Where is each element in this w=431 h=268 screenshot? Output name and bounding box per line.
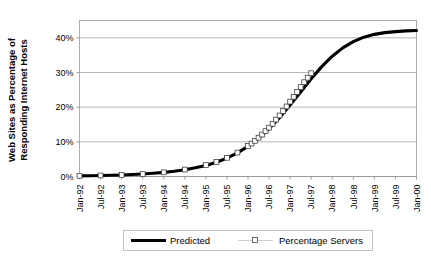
data-point-marker [77, 173, 82, 178]
x-tick-label: Jul-98 [349, 185, 359, 210]
x-tick-label: Jul-96 [264, 185, 274, 210]
x-tick-label: Jan-94 [159, 185, 169, 213]
data-point-marker [161, 170, 166, 175]
data-point-marker [225, 155, 230, 160]
data-point-marker [291, 94, 296, 99]
data-point-marker [140, 172, 145, 177]
data-point-marker [277, 113, 282, 118]
legend-label-predicted: Predicted [170, 235, 210, 246]
chart-canvas: Web Sites as Percentage of Responding In… [0, 0, 431, 268]
data-point-marker [203, 163, 208, 168]
y-axis-tickmarks [77, 38, 80, 177]
x-tick-label: Jan-95 [201, 185, 211, 213]
y-tick-label: 20% [55, 102, 73, 112]
data-point-marker [295, 90, 300, 95]
x-tick-label: Jul-94 [180, 185, 190, 210]
x-axis-tickmarks [80, 177, 417, 180]
y-axis-title-line2: Responding Internet Hosts [18, 39, 29, 160]
y-axis-title-line1: Web Sites as Percentage of [6, 37, 17, 162]
data-point-marker [284, 104, 289, 109]
data-point-marker [214, 160, 219, 165]
x-tick-label: Jul-97 [306, 185, 316, 210]
x-tick-label: Jan-97 [285, 185, 295, 213]
y-tick-label: 30% [55, 68, 73, 78]
series-percentage-servers-markers [77, 71, 313, 178]
x-tick-label: Jan-98 [327, 185, 337, 213]
y-axis-title: Web Sites as Percentage of Responding In… [6, 37, 29, 162]
x-tick-label: Jan-92 [75, 185, 85, 213]
data-point-marker [182, 167, 187, 172]
data-point-marker [305, 75, 310, 80]
y-axis-tick-labels: 0%10%20%30%40% [55, 33, 73, 182]
chart-legend: Predicted Percentage Servers [124, 231, 373, 251]
x-tick-label: Jul-92 [96, 185, 106, 210]
y-tick-label: 0% [60, 172, 73, 182]
data-point-marker [298, 85, 303, 90]
data-point-marker [98, 173, 103, 178]
legend-marker-servers [253, 238, 258, 243]
x-tick-label: Jan-96 [243, 185, 253, 213]
x-tick-label: Jan-99 [370, 185, 380, 213]
data-point-marker [309, 71, 314, 76]
x-tick-label: Jul-99 [391, 185, 401, 210]
data-point-marker [235, 150, 240, 155]
data-point-marker [302, 80, 307, 85]
x-tick-label: Jan-93 [117, 185, 127, 213]
legend-label-servers: Percentage Servers [279, 235, 363, 246]
plot-area-border [80, 21, 417, 177]
x-tick-label: Jan-00 [412, 185, 422, 213]
y-tick-label: 40% [55, 33, 73, 43]
x-tick-label: Jul-93 [138, 185, 148, 210]
data-point-marker [119, 173, 124, 178]
chart-figure: Web Sites as Percentage of Responding In… [0, 0, 431, 268]
series-predicted-line [80, 31, 417, 176]
x-axis-tick-labels: Jan-92Jul-92Jan-93Jul-93Jan-94Jul-94Jan-… [75, 185, 422, 213]
data-point-marker [288, 99, 293, 104]
data-point-marker [281, 109, 286, 114]
x-tick-label: Jul-95 [222, 185, 232, 210]
gridlines [80, 38, 417, 177]
series-percentage-servers-line [80, 73, 312, 176]
y-tick-label: 10% [55, 137, 73, 147]
